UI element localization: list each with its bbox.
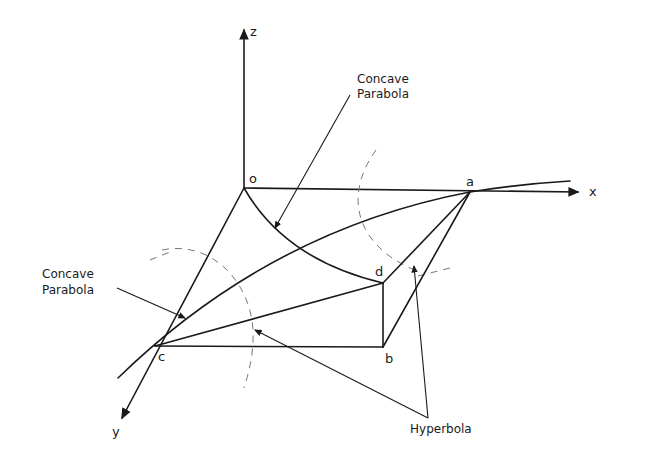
- parabola-o-d: [244, 188, 383, 283]
- concave-parabola-left-label-2: Parabola: [42, 283, 94, 297]
- axes: [122, 30, 578, 418]
- concave-parabola-left-label-1: Concave: [42, 267, 94, 281]
- y-axis-label: y: [112, 424, 120, 439]
- leader-concave-left: [117, 288, 185, 318]
- leader-concave-top: [275, 95, 350, 228]
- leader-lines: [117, 95, 428, 418]
- parabola-c-a: [118, 181, 570, 378]
- surface-edges: [118, 181, 570, 378]
- leader-hyperbola-right: [414, 266, 428, 418]
- point-c-label: c: [158, 349, 165, 364]
- labels: z x y o a d b c Concave Parabola Concave…: [42, 24, 597, 439]
- point-o-label: o: [249, 171, 257, 186]
- concave-parabola-top-label-2: Parabola: [357, 87, 409, 101]
- point-a-label: a: [466, 174, 474, 189]
- hyperbola-label: Hyperbola: [410, 422, 472, 436]
- edge-c-b: [155, 346, 383, 347]
- leader-hyperbola-left: [255, 330, 428, 418]
- z-axis-label: z: [250, 24, 257, 39]
- hyperbolic-paraboloid-diagram: z x y o a d b c Concave Parabola Concave…: [0, 0, 648, 458]
- y-axis: [122, 188, 244, 418]
- point-d-label: d: [375, 264, 383, 279]
- dashed-arc-left-low: [150, 252, 170, 260]
- point-b-label: b: [385, 351, 393, 366]
- concave-parabola-top-label-1: Concave: [357, 72, 409, 86]
- x-axis-label: x: [589, 184, 597, 199]
- x-axis: [244, 188, 578, 192]
